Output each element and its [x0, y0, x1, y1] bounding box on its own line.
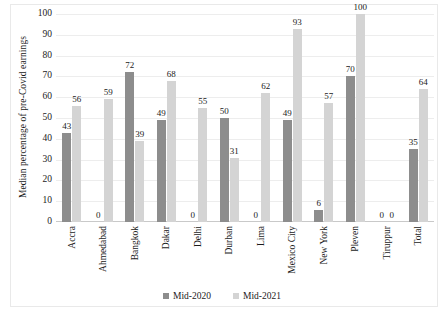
- bar[interactable]: [157, 120, 166, 222]
- bar-value-label: 0: [96, 211, 101, 220]
- x-axis-tick-cell: Bangkok: [119, 224, 151, 286]
- chart-legend: Mid-2020Mid-2021: [0, 291, 444, 301]
- bar-slot: 72: [125, 14, 134, 222]
- bar-value-label: 0: [390, 211, 395, 220]
- bar-slot: 0: [387, 14, 396, 222]
- bar[interactable]: [314, 210, 323, 222]
- x-axis-tick-cell: Accra: [56, 224, 88, 286]
- bar-slot: 6: [314, 14, 323, 222]
- bar[interactable]: [125, 72, 134, 222]
- bar[interactable]: [409, 149, 418, 222]
- x-axis-tick-cell: Dakar: [151, 224, 183, 286]
- y-axis-tick-10: 10: [43, 196, 53, 206]
- x-axis-tick-cell: Pleven: [340, 224, 372, 286]
- x-axis-tick-cell: New York: [308, 224, 340, 286]
- bar-value-label: 0: [191, 211, 196, 220]
- x-axis-label-delhi: Delhi: [193, 226, 203, 247]
- bar-group: 00: [371, 14, 403, 222]
- bar-value-label: 0: [380, 211, 385, 220]
- bar-value-label: 64: [419, 78, 428, 87]
- bar-value-label: 57: [324, 92, 333, 101]
- legend-swatch-icon: [233, 293, 239, 299]
- x-axis-tick-cell: Mexico City: [277, 224, 309, 286]
- bar-slot: 31: [230, 14, 239, 222]
- x-axis-label-mexico-city: Mexico City: [287, 226, 297, 274]
- bar-slot: 59: [104, 14, 113, 222]
- x-axis-tick-cell: Durban: [214, 224, 246, 286]
- bar[interactable]: [220, 118, 229, 222]
- y-axis-tick-30: 30: [43, 155, 53, 165]
- x-axis-label-lima: Lima: [256, 226, 266, 246]
- bar-slot: 62: [261, 14, 270, 222]
- bar[interactable]: [346, 76, 355, 222]
- legend-swatch-icon: [163, 293, 169, 299]
- bar-group: 4993: [277, 14, 309, 222]
- y-axis-tick-labels: 1009080706050403020100: [32, 14, 52, 222]
- bar-slot: 0: [251, 14, 260, 222]
- bar-value-label: 72: [125, 61, 134, 70]
- bar-group: 062: [245, 14, 277, 222]
- bar[interactable]: [283, 120, 292, 222]
- bar-value-label: 49: [157, 109, 166, 118]
- bar[interactable]: [135, 141, 144, 222]
- y-axis-tick-20: 20: [43, 176, 53, 186]
- x-axis-tick-cell: Delhi: [182, 224, 214, 286]
- bar[interactable]: [419, 89, 428, 222]
- y-axis-tick-50: 50: [43, 113, 53, 123]
- bar-slot: 0: [94, 14, 103, 222]
- bar-value-label: 39: [135, 130, 144, 139]
- bar-group: 059: [88, 14, 120, 222]
- x-axis-label-bangkok: Bangkok: [130, 226, 140, 260]
- bar-slot: 50: [220, 14, 229, 222]
- bar-value-label: 6: [317, 199, 322, 208]
- bar[interactable]: [324, 103, 333, 222]
- x-axis-tick-cell: Tiruppur: [371, 224, 403, 286]
- x-axis-tick-cell: Total: [403, 224, 435, 286]
- y-axis-tick-80: 80: [43, 51, 53, 61]
- bar-slot: 55: [198, 14, 207, 222]
- y-axis-tick-40: 40: [43, 134, 53, 144]
- bar-slot: 70: [346, 14, 355, 222]
- bar-value-label: 55: [198, 97, 207, 106]
- bar[interactable]: [230, 158, 239, 222]
- bar[interactable]: [72, 106, 81, 222]
- bar-value-label: 100: [354, 3, 368, 12]
- bar-chart-figure: Median percentage of pre-Covid earnings …: [0, 0, 444, 325]
- bar-group: 3564: [403, 14, 435, 222]
- x-axis-label-tiruppur: Tiruppur: [382, 226, 392, 259]
- bar-group: 70100: [340, 14, 372, 222]
- bar-value-label: 70: [346, 65, 355, 74]
- bar-value-label: 68: [167, 70, 176, 79]
- x-axis-label-durban: Durban: [224, 226, 234, 255]
- bar-slot: 49: [157, 14, 166, 222]
- bar-value-label: 43: [62, 122, 71, 131]
- bar-value-label: 59: [104, 88, 113, 97]
- bar-value-label: 0: [254, 211, 259, 220]
- bar[interactable]: [62, 133, 71, 222]
- x-axis-tick-labels: AccraAhmedabadBangkokDakarDelhiDurbanLim…: [56, 224, 434, 286]
- bar-slot: 43: [62, 14, 71, 222]
- x-axis-tick-cell: Lima: [245, 224, 277, 286]
- legend-item-mid-2021[interactable]: Mid-2021: [233, 291, 281, 301]
- bar-slot: 68: [167, 14, 176, 222]
- bar[interactable]: [293, 29, 302, 222]
- bar[interactable]: [261, 93, 270, 222]
- bar[interactable]: [356, 14, 365, 222]
- bar-group: 4968: [151, 14, 183, 222]
- x-axis-label-ahmedabad: Ahmedabad: [98, 226, 108, 272]
- legend-item-mid-2020[interactable]: Mid-2020: [163, 291, 211, 301]
- bar-slot: 35: [409, 14, 418, 222]
- y-axis-title: Median percentage of pre-Covid earnings: [18, 17, 28, 217]
- bar[interactable]: [167, 81, 176, 222]
- bar-slot: 64: [419, 14, 428, 222]
- bar[interactable]: [104, 99, 113, 222]
- y-axis-tick-100: 100: [38, 9, 52, 19]
- bar-group: 055: [182, 14, 214, 222]
- bar[interactable]: [198, 108, 207, 222]
- bar-slot: 93: [293, 14, 302, 222]
- y-axis-tick-90: 90: [43, 30, 53, 40]
- bar-value-label: 49: [283, 109, 292, 118]
- x-axis-label-accra: Accra: [67, 226, 77, 249]
- bar-value-label: 93: [293, 18, 302, 27]
- y-axis-tick-70: 70: [43, 72, 53, 82]
